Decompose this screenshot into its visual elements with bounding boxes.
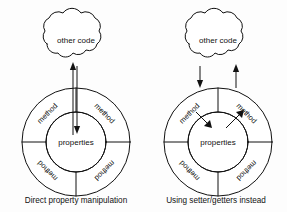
arrow-up-head-left <box>70 62 76 70</box>
object-encapsulation-diagram: other code method method method method <box>0 0 287 212</box>
caption-left: Direct property manipulation <box>25 196 128 205</box>
diagram-canvas: other code method method method method <box>0 0 287 212</box>
panel-direct-property-manipulation: other code method method method method <box>22 8 130 205</box>
cloud-label-right: other code <box>199 36 237 45</box>
center-label-right: properties <box>200 138 236 147</box>
center-label-left: properties <box>58 138 94 147</box>
cloud-shape-left <box>43 8 101 57</box>
panel-using-setter-getters: other code method method method method <box>164 8 272 205</box>
caption-right: Using setter/getters instead <box>166 196 266 205</box>
arrow-cloud-to-ring-head <box>197 80 203 88</box>
cloud-label-left: other code <box>57 36 95 45</box>
cloud-shape-right <box>185 8 243 57</box>
arrow-ring-to-cloud-head <box>233 64 239 72</box>
